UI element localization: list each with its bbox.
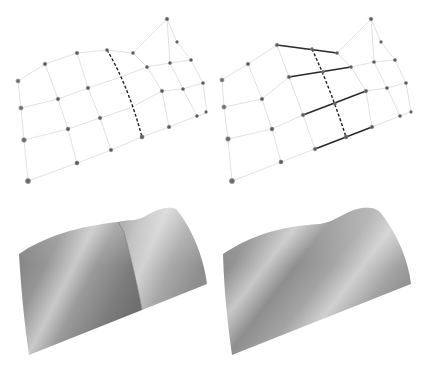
grid-lines (18, 19, 207, 181)
solid-segments (277, 45, 372, 149)
surface-top-sheen (223, 208, 411, 355)
panel-bottom-left-surface (19, 208, 207, 355)
surface-top-sheen (19, 208, 207, 355)
dashed-curve (312, 49, 346, 137)
control-points (220, 17, 412, 183)
control-points (16, 17, 207, 183)
grid-lines (222, 19, 411, 181)
panel-bottom-right-surface (223, 208, 411, 355)
panel-top-left-control-net (16, 17, 207, 183)
dashed-curve (107, 50, 142, 137)
figure-canvas (0, 0, 429, 366)
panel-top-right-control-net (220, 17, 412, 183)
